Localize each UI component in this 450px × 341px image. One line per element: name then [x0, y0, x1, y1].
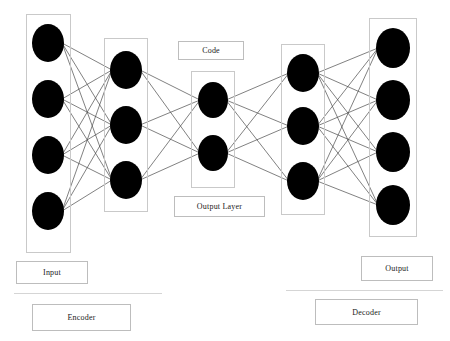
- decoder-label: Decoder: [315, 299, 418, 325]
- output-label: Output: [361, 256, 433, 281]
- autoencoder-diagram: CodeOutput LayerInputOutputEncoderDecode…: [0, 0, 450, 341]
- decoder-hidden-layer-node-1: [287, 54, 319, 92]
- decoder-hidden-layer-node-3: [287, 162, 319, 200]
- code-layer-node-2: [198, 135, 228, 171]
- output-layer-node-4: [376, 185, 410, 225]
- edge-code-layer-2-to-decoder-hidden-layer-2: [226, 126, 289, 153]
- input-layer-node-4: [32, 192, 64, 230]
- encoder-hidden-layer-node-1: [110, 51, 142, 89]
- encoder-rule: [14, 293, 162, 294]
- input-layer-node-1: [32, 24, 64, 62]
- input-label: Input: [16, 261, 88, 284]
- input-layer-node-3: [32, 136, 64, 174]
- output-layer-label: Output Layer: [174, 196, 265, 217]
- encoder-hidden-layer-node-2: [110, 106, 142, 144]
- encoder-label: Encoder: [32, 304, 131, 331]
- code-layer-node-1: [198, 82, 228, 118]
- decoder-rule: [286, 290, 443, 291]
- input-layer-node-2: [32, 80, 64, 118]
- edge-code-layer-1-to-decoder-hidden-layer-1: [226, 73, 289, 100]
- decoder-hidden-layer-node-2: [287, 107, 319, 145]
- code-label: Code: [178, 41, 244, 60]
- edge-code-layer-2-to-decoder-hidden-layer-3: [226, 153, 289, 181]
- encoder-hidden-layer-node-3: [110, 161, 142, 199]
- output-layer-node-2: [376, 80, 410, 120]
- output-layer-node-1: [376, 28, 410, 68]
- output-layer-node-3: [376, 132, 410, 172]
